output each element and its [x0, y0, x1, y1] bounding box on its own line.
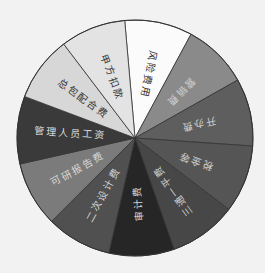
pie-slice-label: 审计费	[131, 185, 145, 222]
pie-chart: 风险费用营销费开办费税金等三通一平费审计费二次设计费可研报告费管理人员工资总包配…	[0, 0, 265, 273]
